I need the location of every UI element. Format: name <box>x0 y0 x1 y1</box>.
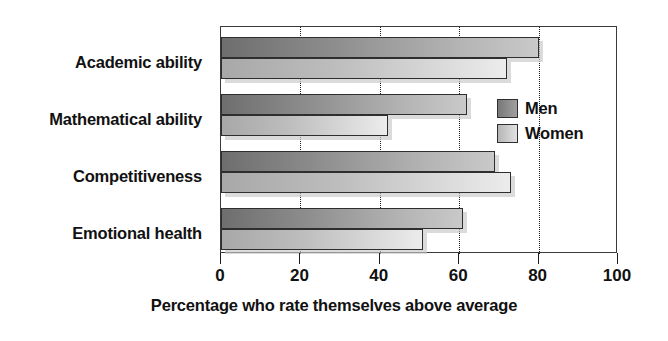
legend-swatch-men-icon <box>497 99 518 118</box>
x-tick-label: 20 <box>269 266 329 286</box>
bar-men-competitiveness <box>221 151 495 172</box>
legend: Men Women <box>497 96 615 146</box>
x-tick-mark <box>299 253 300 264</box>
x-tick-mark <box>458 253 459 264</box>
bar-women-emotional-health <box>221 229 423 250</box>
x-axis-title: Percentage who rate themselves above ave… <box>0 296 668 315</box>
bar-women-mathematical-ability <box>221 115 388 136</box>
x-tick-mark <box>617 253 618 264</box>
x-tick-label: 0 <box>190 266 250 286</box>
x-tick-mark <box>379 253 380 264</box>
bar-chart: Academic ability Mathematical ability Co… <box>0 0 668 341</box>
bar-men-emotional-health <box>221 208 463 229</box>
bar-men-academic-ability <box>221 37 539 58</box>
legend-item-women: Women <box>497 121 615 146</box>
category-label: Competitiveness <box>0 167 202 186</box>
bar-women-academic-ability <box>221 58 507 79</box>
x-tick-label: 80 <box>508 266 568 286</box>
category-axis-labels: Academic ability Mathematical ability Co… <box>0 26 210 253</box>
x-tick-mark <box>538 253 539 264</box>
legend-swatch-women-icon <box>497 124 518 143</box>
bar-men-mathematical-ability <box>221 94 467 115</box>
legend-label-women: Women <box>525 124 583 143</box>
legend-item-men: Men <box>497 96 615 121</box>
x-tick-label: 60 <box>428 266 488 286</box>
legend-label-men: Men <box>525 99 557 118</box>
x-tick-label: 100 <box>587 266 647 286</box>
category-label: Academic ability <box>0 53 202 72</box>
bar-women-competitiveness <box>221 172 511 193</box>
category-label: Emotional health <box>0 224 202 243</box>
category-label: Mathematical ability <box>0 110 202 129</box>
x-tick-label: 40 <box>349 266 409 286</box>
x-tick-mark <box>220 253 221 264</box>
